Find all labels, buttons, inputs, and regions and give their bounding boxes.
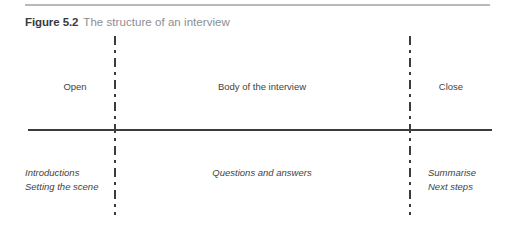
phase-divider-body-close	[409, 36, 411, 215]
activity-notes-open: Introductions Setting the scene	[25, 166, 98, 193]
phase-divider-open-body	[114, 36, 116, 215]
activity-body-line-1: Questions and answers	[150, 166, 374, 180]
phase-label-close: Close	[412, 81, 490, 93]
activity-open-line-1: Introductions	[25, 166, 98, 180]
top-divider-rule	[25, 4, 490, 6]
figure-title: The structure of an interview	[83, 16, 230, 28]
activity-notes-close: Summarise Next steps	[428, 166, 476, 193]
activity-close-line-2: Next steps	[428, 180, 476, 194]
phase-label-body: Body of the interview	[150, 81, 374, 93]
activity-notes-body: Questions and answers	[150, 166, 374, 180]
activity-close-line-1: Summarise	[428, 166, 476, 180]
figure-number: Figure 5.2	[25, 16, 78, 28]
phase-label-open: Open	[30, 81, 120, 93]
figure-container: Figure 5.2The structure of an interview …	[0, 0, 515, 237]
interview-timeline-axis	[28, 129, 492, 131]
activity-open-line-2: Setting the scene	[25, 180, 98, 194]
figure-caption: Figure 5.2The structure of an interview	[25, 15, 230, 29]
